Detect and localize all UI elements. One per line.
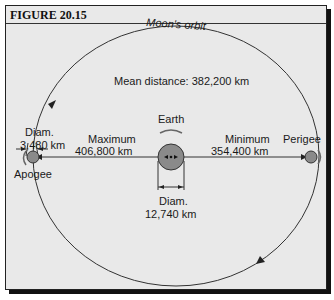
moon-at-apogee: [27, 151, 39, 163]
minimum-label: Minimum: [225, 133, 270, 145]
earth-diam-label: Diam.: [159, 195, 188, 207]
earth-diam-value: 12,740 km: [145, 208, 196, 220]
moon-at-perigee: [305, 151, 317, 163]
earth-rotation-arc: [160, 130, 182, 133]
perigee-label: Perigee: [283, 133, 321, 145]
moon-orbit-diagram: Moon's orbit Mean distance: 382,200 km E…: [6, 6, 326, 289]
maximum-value: 406,800 km: [75, 145, 132, 157]
figure-frame: FIGURE 20.15 Moon's orbit Mean distance:…: [5, 5, 327, 290]
earth-diam-arrow-left: [159, 185, 164, 189]
orbit-arrow-upper-left: [48, 100, 56, 109]
earth-diam-arrow-right: [178, 185, 183, 189]
minimum-value: 354,400 km: [211, 145, 268, 157]
mean-distance-label: Mean distance: 382,200 km: [114, 75, 249, 87]
earth-center-dot: [170, 156, 173, 159]
moon-apogee-rotation-arc: [24, 151, 27, 165]
orbit-label: Moon's orbit: [146, 16, 207, 32]
moon-diam-label: Diam.: [25, 126, 54, 138]
earth-label: Earth: [158, 113, 184, 125]
maximum-label: Maximum: [88, 133, 136, 145]
apogee-label: Apogee: [14, 168, 52, 180]
orbit-arrow-lower-right: [256, 256, 265, 264]
